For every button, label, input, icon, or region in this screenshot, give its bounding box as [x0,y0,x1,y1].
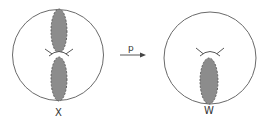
arrow-head-icon [140,53,146,58]
single-lobe [200,58,218,104]
cusp-lower-arc-w [200,52,220,57]
lower-lobe [51,57,67,101]
cusp-lower-arc [49,52,69,57]
upper-lobe [51,9,67,53]
arrow-label-p: p [128,43,134,53]
diagram-canvas: X p W [0,0,269,125]
figure-x: X [13,9,104,118]
figure-w: W [164,12,256,116]
label-w: W [204,105,214,116]
label-x: X [55,107,62,118]
map-arrow: p [120,43,146,58]
